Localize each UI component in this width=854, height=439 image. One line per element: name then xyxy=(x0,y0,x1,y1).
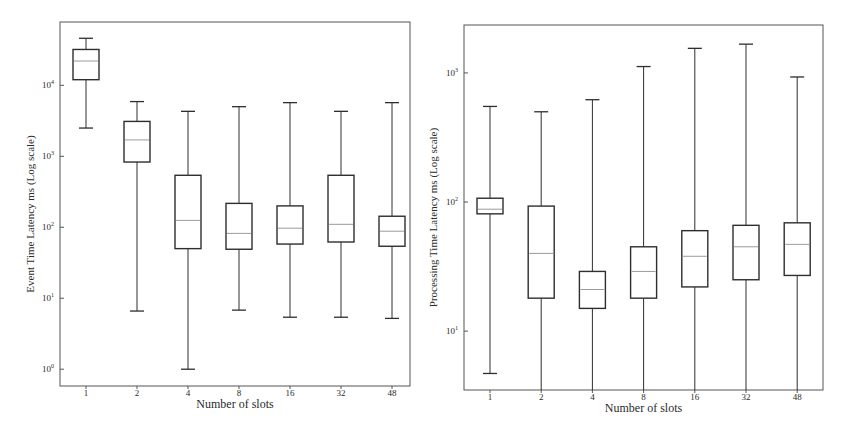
x-tick-label: 2 xyxy=(539,392,544,402)
box-slot-16 xyxy=(277,103,303,318)
x-axis-label: Number of slots xyxy=(196,397,274,411)
iqr-box xyxy=(73,49,99,79)
iqr-box xyxy=(528,206,554,298)
y-tick-label: 101 xyxy=(446,325,458,336)
x-tick-label: 48 xyxy=(388,388,398,398)
processing-time-latency-chart: 1011021031248163248Number of slotsProces… xyxy=(420,0,854,439)
y-tick-label: 102 xyxy=(446,196,458,207)
x-tick-label: 16 xyxy=(690,392,700,402)
processing-time-latency-plot: 1011021031248163248Number of slotsProces… xyxy=(420,0,854,439)
box-slot-8 xyxy=(226,107,252,310)
box-slot-16 xyxy=(682,48,708,390)
y-tick-label: 100 xyxy=(42,363,54,374)
iqr-box xyxy=(784,223,810,276)
event-time-latency-chart: 1001011021031041248163248Number of slots… xyxy=(0,0,420,439)
y-tick-label: 104 xyxy=(42,79,54,90)
x-tick-label: 32 xyxy=(742,392,751,402)
box-slot-48 xyxy=(379,103,405,319)
iqr-box xyxy=(733,225,759,279)
y-tick-label: 101 xyxy=(42,292,54,303)
box-slot-2 xyxy=(124,102,150,311)
x-tick-label: 1 xyxy=(84,388,89,398)
iqr-box xyxy=(477,198,503,214)
y-tick-label: 102 xyxy=(42,221,54,232)
x-tick-label: 48 xyxy=(793,392,803,402)
box-slot-32 xyxy=(328,111,354,317)
iqr-box xyxy=(682,231,708,287)
x-tick-label: 16 xyxy=(286,388,296,398)
iqr-box xyxy=(277,206,303,244)
iqr-box xyxy=(124,121,150,162)
box-slot-4 xyxy=(579,100,605,390)
iqr-box xyxy=(226,203,252,249)
box-slot-1 xyxy=(73,38,99,128)
box-slot-2 xyxy=(528,112,554,390)
box-slot-32 xyxy=(733,44,759,390)
y-axis-label: Event Time Latency ms (Log scale) xyxy=(24,135,37,293)
x-tick-label: 2 xyxy=(135,388,140,398)
x-tick-label: 4 xyxy=(590,392,595,402)
x-axis-label: Number of slots xyxy=(605,401,683,415)
y-tick-label: 103 xyxy=(446,67,458,78)
box-slot-1 xyxy=(477,106,503,373)
box-slot-48 xyxy=(784,77,810,390)
iqr-box xyxy=(175,175,201,248)
x-tick-label: 1 xyxy=(488,392,493,402)
iqr-box xyxy=(631,247,657,298)
box-slot-4 xyxy=(175,111,201,369)
event-time-latency-plot: 1001011021031041248163248Number of slots… xyxy=(0,0,420,439)
box-slot-8 xyxy=(631,67,657,390)
y-axis-label: Processing Time Latency ms (Log scale) xyxy=(427,128,440,308)
y-tick-label: 103 xyxy=(42,150,54,161)
x-tick-label: 32 xyxy=(337,388,346,398)
x-tick-label: 4 xyxy=(186,388,191,398)
iqr-box xyxy=(328,175,354,242)
